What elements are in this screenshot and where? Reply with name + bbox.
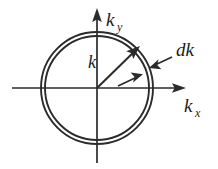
wavevector-label: k bbox=[88, 52, 97, 72]
x-axis-label-subscript: x bbox=[194, 106, 201, 120]
shell-thickness-label: dk bbox=[176, 39, 195, 60]
kspace-annulus-figure: k y k x k dk bbox=[0, 0, 218, 169]
y-axis-label: k bbox=[106, 9, 115, 30]
figure-canvas: k y k x k dk bbox=[0, 0, 218, 169]
shell-pointer-upper-head bbox=[149, 59, 161, 69]
shell-pointer-lower-head bbox=[131, 73, 143, 83]
wavevector-shaft bbox=[97, 52, 134, 89]
y-axis-label-subscript: y bbox=[116, 20, 123, 34]
labels-group: k y k x k dk bbox=[88, 9, 201, 120]
shell-pointer-upper-shaft bbox=[156, 57, 172, 65]
shell-pointer-lower bbox=[118, 73, 143, 86]
x-axis-label: k bbox=[184, 95, 193, 116]
shell-pointer-upper bbox=[149, 57, 172, 69]
